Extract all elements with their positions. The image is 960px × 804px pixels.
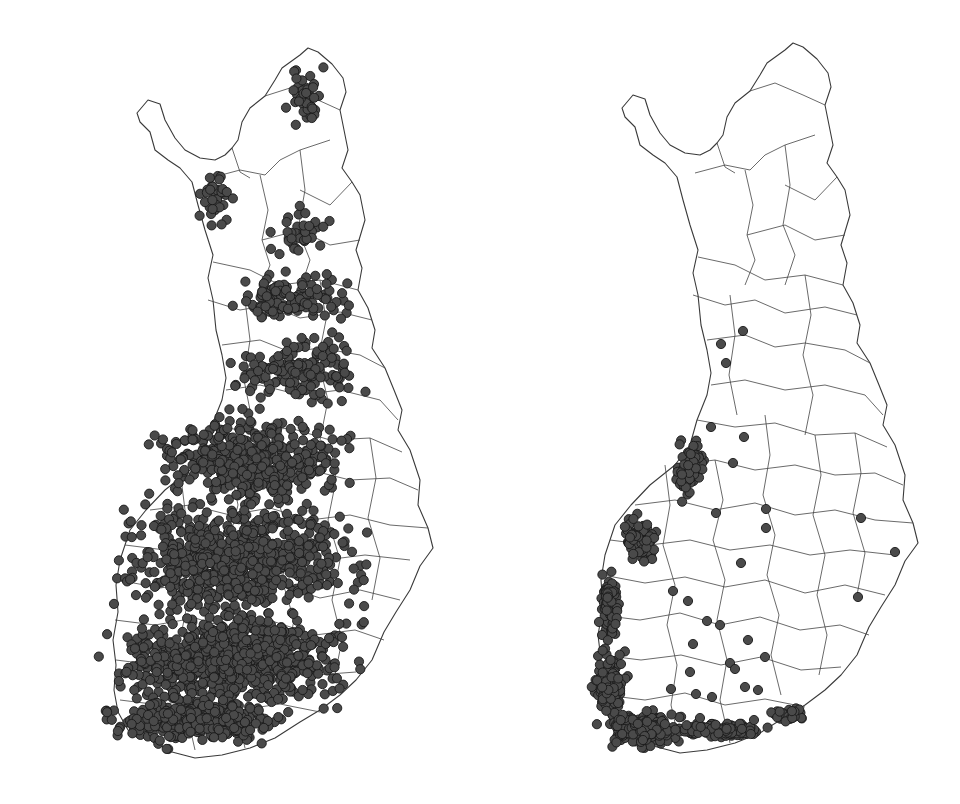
data-point bbox=[150, 582, 159, 591]
data-point bbox=[176, 705, 185, 714]
data-point bbox=[715, 620, 724, 629]
data-point bbox=[677, 470, 686, 479]
data-point bbox=[257, 441, 266, 450]
data-point bbox=[226, 358, 235, 367]
data-point bbox=[286, 424, 295, 433]
data-point bbox=[166, 569, 175, 578]
data-point bbox=[602, 706, 611, 715]
data-point bbox=[254, 478, 263, 487]
data-point bbox=[736, 558, 745, 567]
data-point bbox=[219, 696, 228, 705]
data-point bbox=[283, 481, 292, 490]
data-point bbox=[150, 567, 159, 576]
data-point bbox=[310, 333, 319, 342]
data-point bbox=[205, 173, 214, 182]
data-point bbox=[207, 493, 216, 502]
data-point bbox=[259, 279, 268, 288]
data-point bbox=[276, 461, 285, 470]
data-point bbox=[305, 552, 314, 561]
data-point bbox=[746, 729, 755, 738]
data-point bbox=[678, 497, 687, 506]
data-point bbox=[199, 458, 208, 467]
data-point bbox=[163, 709, 172, 718]
data-point bbox=[289, 86, 298, 95]
data-point bbox=[359, 576, 368, 585]
data-point bbox=[198, 735, 207, 744]
data-point bbox=[256, 393, 265, 402]
data-point bbox=[130, 644, 139, 653]
data-point bbox=[319, 704, 328, 713]
data-point bbox=[683, 596, 692, 605]
data-point bbox=[242, 526, 251, 535]
data-point bbox=[228, 301, 237, 310]
data-point bbox=[743, 635, 752, 644]
data-point bbox=[143, 553, 152, 562]
data-point bbox=[344, 524, 353, 533]
data-point bbox=[695, 713, 704, 722]
data-point bbox=[711, 508, 720, 517]
data-point bbox=[303, 669, 312, 678]
data-point bbox=[242, 297, 251, 306]
data-point bbox=[206, 185, 215, 194]
data-point bbox=[289, 609, 298, 618]
data-point bbox=[131, 591, 140, 600]
data-point bbox=[152, 653, 161, 662]
data-point bbox=[254, 706, 263, 715]
data-point bbox=[246, 704, 255, 713]
data-point bbox=[250, 376, 259, 385]
data-point bbox=[157, 525, 166, 534]
data-point bbox=[312, 661, 321, 670]
data-point bbox=[177, 509, 186, 518]
data-point bbox=[266, 557, 275, 566]
data-point bbox=[165, 639, 174, 648]
data-point bbox=[222, 713, 231, 722]
data-point bbox=[170, 550, 179, 559]
data-point bbox=[183, 695, 192, 704]
data-point bbox=[642, 536, 651, 545]
data-point bbox=[103, 708, 112, 717]
data-point bbox=[126, 517, 135, 526]
data-point bbox=[254, 367, 263, 376]
data-point bbox=[188, 426, 197, 435]
data-point bbox=[185, 633, 194, 642]
data-point bbox=[702, 616, 711, 625]
data-point bbox=[322, 581, 331, 590]
data-point bbox=[325, 634, 334, 643]
data-point bbox=[269, 444, 278, 453]
data-point bbox=[141, 500, 150, 509]
data-point bbox=[344, 301, 353, 310]
data-point bbox=[316, 388, 325, 397]
data-point bbox=[643, 717, 652, 726]
data-point bbox=[170, 693, 179, 702]
data-point bbox=[344, 383, 353, 392]
data-point bbox=[316, 441, 325, 450]
data-point bbox=[141, 579, 150, 588]
data-point bbox=[349, 564, 358, 573]
data-point bbox=[246, 387, 255, 396]
data-point bbox=[272, 566, 281, 575]
data-point bbox=[237, 563, 246, 572]
data-point bbox=[254, 516, 263, 525]
data-point bbox=[271, 287, 280, 296]
data-point bbox=[253, 307, 262, 316]
data-point bbox=[246, 417, 255, 426]
data-point bbox=[290, 440, 299, 449]
data-point bbox=[201, 571, 210, 580]
data-point bbox=[187, 622, 196, 631]
data-point bbox=[215, 413, 224, 422]
data-point bbox=[316, 373, 325, 382]
data-point bbox=[155, 610, 164, 619]
data-point bbox=[126, 575, 135, 584]
data-point bbox=[666, 684, 675, 693]
data-point bbox=[202, 508, 211, 517]
data-point bbox=[292, 74, 301, 83]
data-point bbox=[332, 674, 341, 683]
data-point bbox=[321, 459, 330, 468]
data-point bbox=[327, 475, 336, 484]
data-point bbox=[303, 300, 312, 309]
data-point bbox=[272, 576, 281, 585]
data-point bbox=[122, 667, 131, 676]
data-point bbox=[255, 404, 264, 413]
data-point bbox=[706, 422, 715, 431]
data-point bbox=[688, 639, 697, 648]
